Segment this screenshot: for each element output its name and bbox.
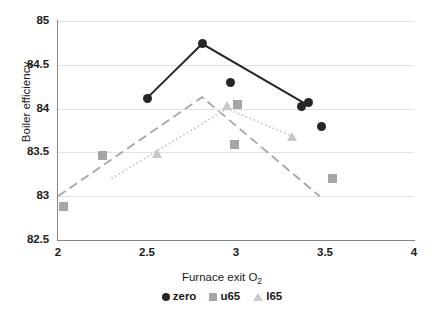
legend-item-u65[interactable]: u65 xyxy=(209,291,240,303)
data-point-l65 xyxy=(222,101,232,110)
plot-area xyxy=(58,21,414,240)
legend-item-zero[interactable]: zero xyxy=(162,291,197,303)
data-point-u65 xyxy=(98,151,107,160)
data-point-u65 xyxy=(59,202,68,211)
data-point-u65 xyxy=(233,100,242,109)
y-tick-label: 82.5 xyxy=(27,233,49,245)
series-line-l65 xyxy=(111,109,293,179)
legend-label: zero xyxy=(173,291,197,303)
data-point-u65 xyxy=(230,140,239,149)
data-point-u65 xyxy=(328,174,337,183)
data-point-l65 xyxy=(152,149,162,158)
data-point-zero xyxy=(317,122,326,131)
x-tick-label: 2.5 xyxy=(139,246,155,258)
chart-container: 82.58383.58484.585 22.533.54 Boiler effi… xyxy=(0,0,444,320)
x-tick-label: 4 xyxy=(411,246,417,258)
x-axis-line xyxy=(57,240,415,241)
data-point-zero xyxy=(198,39,207,48)
legend-item-l65[interactable]: l65 xyxy=(253,291,282,303)
circle-marker-icon xyxy=(162,293,170,301)
x-axis-title-text: Furnace exit O xyxy=(182,271,257,283)
legend-label: l65 xyxy=(266,291,282,303)
series-line-zero xyxy=(147,44,309,106)
y-axis-title: Boiler efficiency xyxy=(20,17,32,187)
square-marker-icon xyxy=(209,293,217,301)
y-tick-label: 85 xyxy=(36,14,49,26)
x-tick-label: 3 xyxy=(233,246,239,258)
x-axis-title-subscript: 2 xyxy=(257,276,262,286)
series-line-u65 xyxy=(58,97,320,196)
legend-label: u65 xyxy=(220,291,240,303)
triangle-marker-icon xyxy=(253,293,263,301)
x-axis-title: Furnace exit O2 xyxy=(0,271,444,286)
data-point-zero xyxy=(226,78,235,87)
chart-legend: zerou65l65 xyxy=(0,291,444,303)
data-point-zero xyxy=(143,94,152,103)
x-tick-label: 2 xyxy=(55,246,61,258)
y-tick-label: 83 xyxy=(36,189,49,201)
data-point-l65 xyxy=(287,132,297,141)
x-tick-label: 3.5 xyxy=(317,246,333,258)
series-lines xyxy=(58,21,414,240)
y-tick-label: 84 xyxy=(36,102,49,114)
